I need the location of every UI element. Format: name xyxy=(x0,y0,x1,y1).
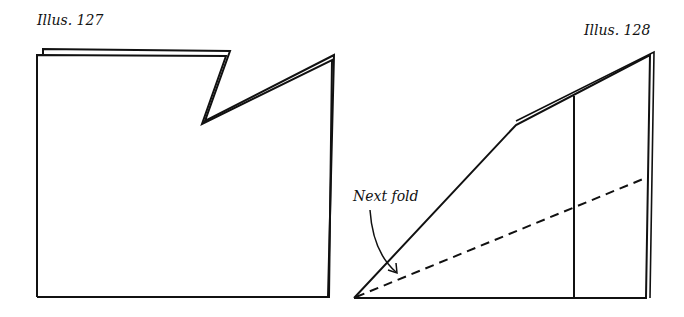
folded-outline xyxy=(354,55,650,298)
fold-diagrams xyxy=(0,0,684,317)
arrow-curve xyxy=(370,210,396,272)
illustration-128-figure xyxy=(354,52,654,298)
front-sheet-edge xyxy=(37,55,332,297)
illustration-127-figure xyxy=(37,49,334,297)
back-layer-edge xyxy=(43,49,334,297)
dashed-fold-line xyxy=(356,177,648,297)
